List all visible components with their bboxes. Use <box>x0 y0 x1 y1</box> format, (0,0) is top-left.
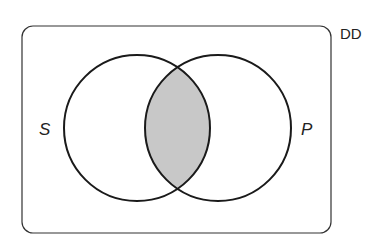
set-s-label: S <box>39 120 51 139</box>
universe-label: DD <box>340 25 362 42</box>
venn-diagram: DD S P <box>0 0 381 245</box>
set-p-label: P <box>301 120 313 139</box>
